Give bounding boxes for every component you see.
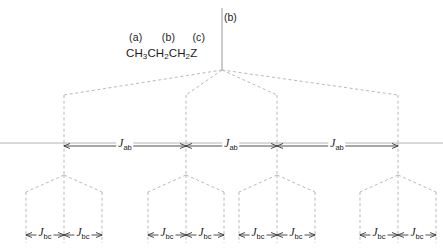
diagram-canvas [0, 0, 443, 250]
proton-label-b: (b) [162, 32, 175, 43]
jbc-label-7: Jbc [370, 226, 387, 241]
jab-subscript-3: ab [335, 143, 343, 152]
quartet-verticals [64, 95, 398, 143]
jbc-subscript-1: bc [44, 232, 52, 241]
jbc-label-1: Jbc [36, 226, 53, 241]
formula-sub-2a: 2 [164, 52, 169, 61]
jbc-subscript-7: bc [378, 232, 386, 241]
jbc-subscript-8: bc [416, 232, 424, 241]
proton-assignment-labels: (a) (b) (c) [129, 32, 205, 43]
formula-sub-2b: 2 [186, 52, 191, 61]
quartet-branches [64, 70, 398, 95]
formula-segment-ch2a: CH [147, 47, 164, 59]
jbc-subscript-3: bc [166, 232, 174, 241]
formula-segment-z: Z [190, 47, 197, 59]
root-proton-label: (b) [224, 12, 237, 23]
jbc-subscript-6: bc [295, 232, 303, 241]
jbc-subscript-2: bc [82, 232, 90, 241]
proton-label-a: (a) [129, 32, 142, 43]
chemical-formula: CH3CH2CH2Z [126, 48, 197, 60]
triplet-branches [26, 175, 436, 192]
jab-label-1: Jab [116, 137, 133, 152]
formula-segment-ch: CH [126, 47, 143, 59]
formula-segment-ch2b: CH [169, 47, 186, 59]
jbc-label-2: Jbc [74, 226, 91, 241]
formula-sub-3: 3 [143, 52, 148, 61]
jbc-label-8: Jbc [408, 226, 425, 241]
proton-label-c: (c) [192, 32, 205, 43]
jbc-label-6: Jbc [287, 226, 304, 241]
splitting-tree-diagram: (a) (b) (c) CH3CH2CH2Z (b) Jab Jab Jab J… [0, 0, 443, 250]
jab-subscript-1: ab [123, 143, 131, 152]
jab-subscript-2: ab [229, 143, 237, 152]
jbc-label-5: Jbc [249, 226, 266, 241]
jab-label-2: Jab [222, 137, 239, 152]
jbc-label-4: Jbc [196, 226, 213, 241]
jbc-label-3: Jbc [158, 226, 175, 241]
jbc-subscript-5: bc [257, 232, 265, 241]
jab-label-3: Jab [328, 137, 345, 152]
jbc-subscript-4: bc [204, 232, 212, 241]
